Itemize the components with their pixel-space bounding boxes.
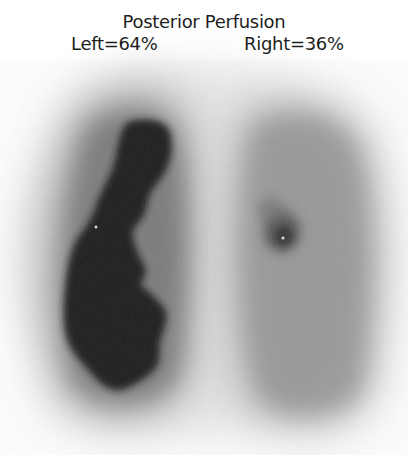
grain-overlay	[0, 60, 408, 455]
left-lung-percentage-label: Left=64%	[71, 33, 158, 55]
right-lung-percentage-label: Right=36%	[244, 33, 344, 55]
perfusion-scan-image	[0, 0, 408, 455]
figure-title: Posterior Perfusion	[0, 11, 408, 33]
